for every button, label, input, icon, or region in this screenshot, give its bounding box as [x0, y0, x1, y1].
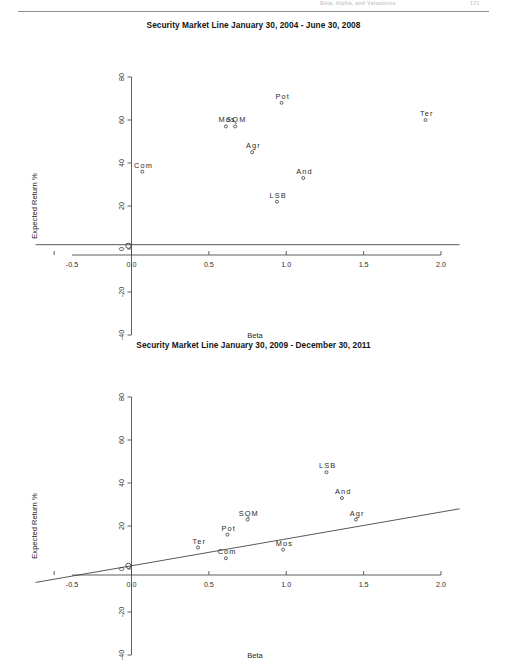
page-header: Beta, Alpha, and Valuations 171: [0, 0, 507, 14]
x-tick-label: 0.5: [204, 580, 214, 589]
x-tick-label: 0.5: [204, 260, 214, 269]
y-axis-title: Expected Return %: [30, 493, 39, 558]
point-label-and: And: [296, 167, 312, 176]
point-label-agr: Agr: [350, 509, 365, 518]
y-tick-label: -20: [116, 607, 125, 617]
security-market-line: [36, 509, 460, 583]
page-header-page-number: 171: [470, 0, 480, 6]
y-tick-label: 60: [116, 436, 125, 444]
data-point: [141, 170, 144, 173]
y-tick-label: 40: [116, 479, 125, 487]
point-label-agr: Agr: [246, 141, 261, 150]
x-tick-label: 2.0: [436, 260, 446, 269]
y-axis-title: Expected Return %: [30, 173, 39, 238]
y-tick-label: 40: [116, 159, 125, 167]
header-divider: [18, 11, 489, 12]
y-tick-label: 80: [116, 393, 125, 401]
data-point: [325, 471, 328, 474]
point-label-ter: Ter: [420, 109, 434, 118]
point-label-sqm: SQM: [226, 115, 246, 124]
x-tick-label: 1.0: [281, 260, 291, 269]
page-header-running-title: Beta, Alpha, and Valuations: [320, 0, 396, 6]
x-tick-label: 1.5: [359, 580, 369, 589]
data-point: [282, 548, 285, 551]
point-label-com: Com: [134, 161, 153, 170]
point-label-sqm: SQM: [239, 509, 259, 518]
data-point: [226, 533, 229, 536]
data-point: [246, 518, 249, 521]
y-tick-label: -40: [116, 330, 125, 340]
x-axis-title: Beta: [247, 331, 263, 340]
point-label-and: And: [335, 487, 351, 496]
point-label-ter: Ter: [192, 537, 206, 546]
point-label-lsb: LSB: [270, 191, 287, 200]
x-tick-label: 0.0: [127, 260, 137, 269]
x-tick-label: 1.5: [359, 260, 369, 269]
point-label-mos: Mos: [276, 539, 293, 548]
y-tick-label: 0: [116, 247, 125, 251]
data-point: [197, 546, 200, 549]
data-point: [224, 557, 227, 560]
point-label-lsb: LSB: [319, 461, 336, 470]
x-tick-label: -0.5: [66, 580, 78, 589]
x-tick-label: 2.0: [436, 580, 446, 589]
point-label-pot: Pot: [276, 92, 290, 101]
point-label-com: Com: [218, 547, 237, 556]
figure-1-plot-area: ComMosSQMAgrPotAndLSBTer806040200-20-40-…: [0, 20, 507, 340]
y-tick-label: 80: [116, 73, 125, 81]
data-point: [224, 125, 227, 128]
data-point: [251, 151, 254, 154]
data-point: [280, 101, 283, 104]
figure-2-plot-area: TerPotComSQMMosLSBAndAgr806040200-20-40-…: [0, 340, 507, 660]
data-point: [340, 497, 343, 500]
y-tick-label: 60: [116, 116, 125, 124]
y-tick-label: -20: [116, 287, 125, 297]
data-point: [354, 518, 357, 521]
figure-security-market-line-2009-2011: Security Market Line January 30, 2009 - …: [0, 340, 507, 660]
x-axis-title: Beta: [247, 651, 263, 660]
data-point: [234, 125, 237, 128]
y-tick-label: -40: [116, 650, 125, 660]
data-point: [424, 119, 427, 122]
y-tick-label: 0: [116, 567, 125, 571]
data-point: [275, 200, 278, 203]
data-point: [302, 177, 305, 180]
figure-security-market-line-2004-2008: Security Market Line January 30, 2004 - …: [0, 20, 507, 340]
point-label-pot: Pot: [221, 524, 235, 533]
y-tick-label: 20: [116, 522, 125, 530]
y-tick-label: 20: [116, 202, 125, 210]
market-portfolio-point: [126, 243, 131, 248]
x-tick-label: 1.0: [281, 580, 291, 589]
x-tick-label: 0.0: [127, 580, 137, 589]
x-tick-label: -0.5: [66, 260, 78, 269]
